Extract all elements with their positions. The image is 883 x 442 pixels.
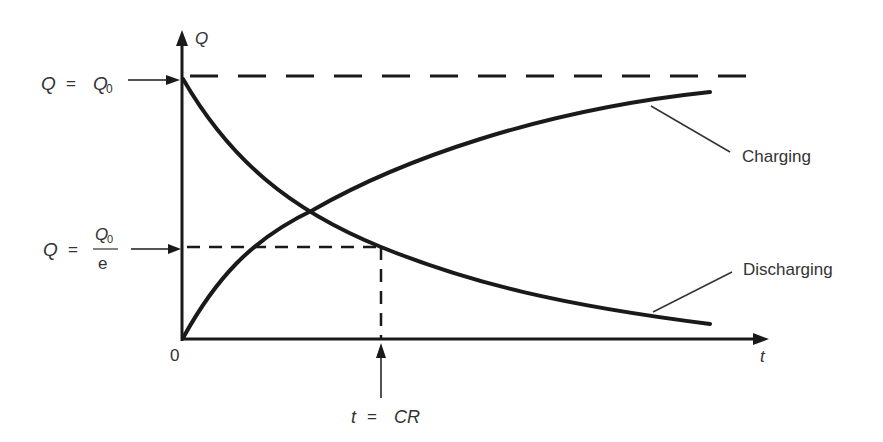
y-axis-label: Q xyxy=(195,29,208,48)
y-axis-arrowhead-icon xyxy=(176,30,188,46)
origin-label: 0 xyxy=(170,346,179,365)
svg-text:0: 0 xyxy=(107,233,113,245)
x-axis-label: t xyxy=(760,347,766,366)
charging-curve xyxy=(183,92,710,338)
discharging-label: Discharging xyxy=(743,260,833,279)
q0e-pointer-arrowhead-icon xyxy=(168,244,181,254)
q0-label: Q = Q 0 xyxy=(41,73,113,96)
rc-charge-discharge-diagram: Q t 0 Q = Q 0 Q = Q 0 e t = CR Charging … xyxy=(0,0,883,442)
svg-text:e: e xyxy=(98,254,107,273)
q0-pointer-arrowhead-icon xyxy=(166,75,180,85)
svg-text:=: = xyxy=(66,74,76,93)
svg-text:Q: Q xyxy=(41,73,56,94)
svg-text:=: = xyxy=(68,240,78,259)
svg-text:CR: CR xyxy=(394,407,420,427)
svg-text:0: 0 xyxy=(106,82,113,96)
svg-text:Q: Q xyxy=(43,239,58,260)
charging-label: Charging xyxy=(742,147,811,166)
discharging-curve xyxy=(183,79,710,324)
x-axis-arrowhead-icon xyxy=(753,333,769,345)
svg-text:t: t xyxy=(351,407,357,427)
t-cr-label: t = CR xyxy=(351,407,420,427)
tcr-pointer-arrowhead-icon xyxy=(376,343,386,358)
svg-text:=: = xyxy=(367,407,377,426)
discharging-leader-line xyxy=(653,272,732,312)
q0-over-e-label: Q = Q 0 e xyxy=(43,225,118,273)
charging-leader-line xyxy=(651,106,730,152)
